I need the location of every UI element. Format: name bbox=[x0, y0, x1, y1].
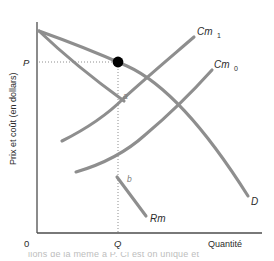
cm1-curve bbox=[62, 37, 194, 141]
cm1-label: Cm bbox=[197, 26, 213, 37]
point-a-label: a bbox=[123, 91, 128, 101]
cm0-label: Cm bbox=[214, 59, 230, 70]
marginal-revenue-label: Rm bbox=[150, 213, 166, 224]
caption-fragment-text: llons de la même à P. Cl est on unique e… bbox=[28, 252, 199, 259]
cm0-label-subscript: 0 bbox=[234, 65, 238, 72]
y-axis-title: Prix et coût (en dollars) bbox=[8, 72, 18, 165]
economics-figure: Prix et coût (en dollars) P 0 Q Quantité… bbox=[0, 0, 274, 261]
marginal-revenue-upper-segment bbox=[39, 31, 124, 101]
demand-label: D bbox=[251, 196, 258, 207]
x-axis-title: Quantité bbox=[208, 239, 242, 249]
figure-canvas: Prix et coût (en dollars) P 0 Q Quantité… bbox=[0, 0, 274, 261]
cm1-label-subscript: 1 bbox=[217, 32, 221, 39]
point-b-label: b bbox=[127, 174, 132, 184]
x-tick-label-q: Q bbox=[114, 238, 122, 249]
origin-label: 0 bbox=[24, 238, 29, 249]
cropped-caption-strip: llons de la même à P. Cl est on unique e… bbox=[0, 252, 274, 261]
equilibrium-point-marker bbox=[113, 57, 124, 68]
y-tick-label-p: P bbox=[23, 57, 30, 68]
demand-curve bbox=[39, 31, 248, 196]
